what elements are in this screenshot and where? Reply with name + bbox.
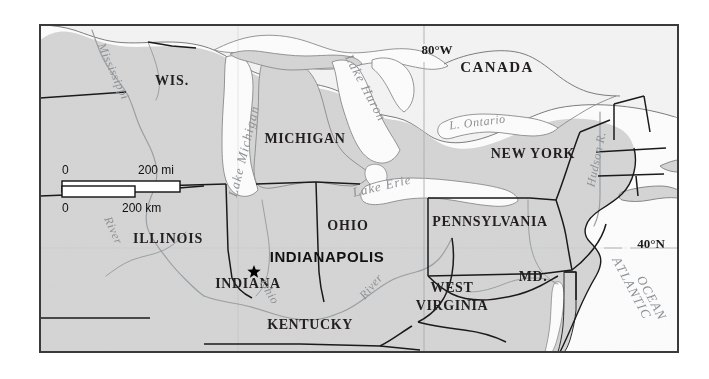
scale-bar-km-max-label: 200 km [122, 201, 161, 215]
scale-bar-miles-zero-label: 0 [62, 163, 69, 177]
new-york-label: NEW YORK [491, 146, 576, 161]
wisconsin-label: WIS. [155, 73, 189, 88]
west-virginia-1-label: WEST [431, 280, 474, 295]
CANADA-label: CANADA [460, 59, 533, 75]
michigan-label: MICHIGAN [264, 131, 345, 146]
map-figure: CANADAWIS.MICHIGANNEW YORKILLINOISOHIOPE… [0, 0, 709, 379]
ohio-label: OHIO [327, 218, 368, 233]
kentucky-label: KENTUCKY [267, 317, 353, 332]
latitude-40n-label: 40°N [637, 236, 665, 251]
scale-bar-miles-max-label: 200 mi [138, 163, 174, 177]
scale-bar-km-rect [62, 186, 135, 197]
maryland-label: MD. [519, 269, 548, 284]
illinois-label: ILLINOIS [133, 231, 203, 246]
pennsylvania-label: PENNSYLVANIA [432, 214, 548, 229]
longitude-80w-label: 80°W [421, 42, 452, 57]
west-virginia-2-label: VIRGINIA [416, 298, 489, 313]
map-canvas: CANADAWIS.MICHIGANNEW YORKILLINOISOHIOPE… [0, 0, 709, 379]
scale-bar-km-zero-label: 0 [62, 201, 69, 215]
indianapolis-city-label: INDIANAPOLIS [270, 248, 385, 265]
